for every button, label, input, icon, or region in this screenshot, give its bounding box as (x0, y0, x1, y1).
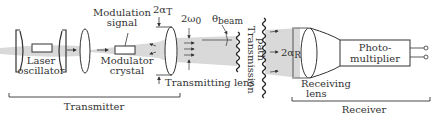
transmitter-label: Transmitter (64, 101, 125, 112)
laser-label-2: oscillator (17, 65, 64, 76)
beam-arrows (184, 28, 194, 70)
photomultiplier-label-1: Photo- (359, 42, 392, 53)
omega-0-symbol: 2ω0 (181, 13, 202, 26)
optical-link-diagram: Laser oscillator Modulation signal Modul… (0, 0, 438, 119)
receiver-label: Receiver (342, 104, 387, 115)
alpha-t-symbol: 2αT (153, 4, 172, 17)
transmitting-lens (165, 27, 177, 75)
output-terminal (424, 46, 428, 50)
output-terminal (424, 55, 428, 59)
modulator-crystal (115, 46, 135, 54)
transmission-path-label-1: Transmission (246, 26, 257, 94)
theta-beam-symbol: θbeam (212, 13, 243, 26)
transmission-path-label-2: path (256, 38, 267, 61)
receiving-lens (301, 28, 317, 78)
laser-rod (32, 44, 52, 52)
transmitter-bracket (9, 93, 180, 97)
photomultiplier-label-2: multiplier (350, 53, 400, 64)
modulator-label-2: crystal (110, 65, 144, 76)
modulation-label-2: signal (107, 17, 137, 28)
transmitting-lens-label: Transmitting lens (165, 77, 255, 88)
focusing-lens (80, 29, 90, 73)
receiving-lens-label-2: lens (306, 88, 327, 99)
